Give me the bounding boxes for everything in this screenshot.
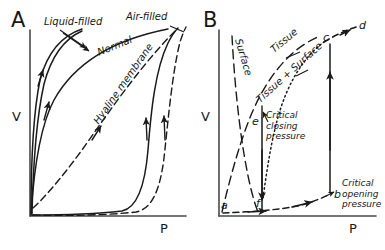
pv-curve-figure: A V P Liquid-filled Air-filled Normal Hy…: [0, 0, 385, 250]
curve-surface: [232, 36, 258, 212]
panel-a-curves: [31, 27, 186, 215]
panel-b-curves: [222, 27, 356, 213]
curve-liquid-filled-inflation: [32, 31, 82, 214]
curve-ab-limb: [223, 194, 330, 213]
curve-liquid-filled-deflation: [31, 29, 82, 214]
curve-tissue: [222, 36, 320, 212]
panel-b-axes: [219, 30, 376, 216]
curve-normal-deflation: [31, 29, 168, 214]
figure-canvas: [0, 0, 385, 250]
curve-tissue-plus-surface: [263, 42, 324, 198]
